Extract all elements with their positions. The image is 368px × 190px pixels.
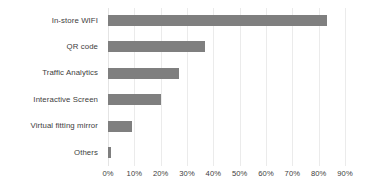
plot-area <box>108 8 345 166</box>
gridline-80 <box>319 8 320 166</box>
gridline-20 <box>161 8 162 166</box>
value-axis: 0%10%20%30%40%50%60%70%80%90% <box>108 170 345 184</box>
x-tick-label: 30% <box>179 170 195 178</box>
x-tick-label: 50% <box>232 170 248 178</box>
bar <box>108 121 132 132</box>
category-label: Interactive Screen <box>33 96 98 104</box>
category-label: Others <box>74 149 98 157</box>
x-tick-label: 10% <box>127 170 143 178</box>
gridline-0 <box>108 8 109 166</box>
category-label: In-store WIFI <box>52 17 98 25</box>
x-tick-label: 90% <box>337 170 353 178</box>
bar <box>108 41 205 52</box>
x-tick-label: 0% <box>102 170 113 178</box>
gridline-70 <box>292 8 293 166</box>
bar <box>108 15 327 26</box>
category-label: Traffic Analytics <box>42 69 98 77</box>
gridline-60 <box>266 8 267 166</box>
bar <box>108 68 179 79</box>
x-tick-label: 40% <box>206 170 222 178</box>
gridline-90 <box>345 8 346 166</box>
x-tick-label: 60% <box>258 170 274 178</box>
x-tick-label: 20% <box>153 170 169 178</box>
gridline-30 <box>187 8 188 166</box>
x-tick-label: 70% <box>285 170 301 178</box>
gridline-40 <box>213 8 214 166</box>
gridline-50 <box>240 8 241 166</box>
category-axis: In-store WIFIQR codeTraffic AnalyticsInt… <box>0 0 104 166</box>
bar <box>108 147 111 158</box>
bar-chart: In-store WIFIQR codeTraffic AnalyticsInt… <box>0 0 368 190</box>
category-label: Virtual fitting mirror <box>31 122 98 130</box>
gridline-10 <box>134 8 135 166</box>
x-tick-label: 80% <box>311 170 327 178</box>
category-label: QR code <box>67 43 98 51</box>
bar <box>108 94 161 105</box>
